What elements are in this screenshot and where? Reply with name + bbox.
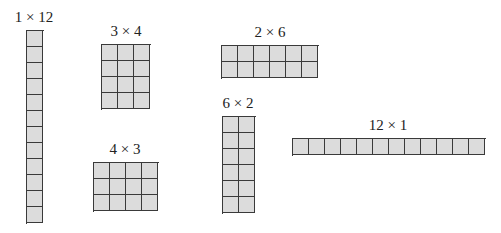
unit-square bbox=[302, 46, 318, 62]
unit-square bbox=[94, 195, 110, 211]
unit-square bbox=[27, 31, 43, 47]
unit-square bbox=[118, 61, 134, 77]
unit-square bbox=[27, 47, 43, 63]
unit-square bbox=[27, 191, 43, 207]
unit-square bbox=[286, 46, 302, 62]
unit-square bbox=[223, 117, 239, 133]
unit-square bbox=[405, 139, 421, 155]
unit-square bbox=[126, 163, 142, 179]
unit-square bbox=[94, 179, 110, 195]
unit-square bbox=[239, 181, 255, 197]
unit-square bbox=[341, 139, 357, 155]
unit-square bbox=[239, 149, 255, 165]
unit-square bbox=[469, 139, 485, 155]
unit-square bbox=[102, 77, 118, 93]
unit-square bbox=[118, 77, 134, 93]
unit-square bbox=[223, 181, 239, 197]
unit-square bbox=[373, 139, 389, 155]
unit-square bbox=[223, 149, 239, 165]
unit-square bbox=[94, 163, 110, 179]
grid-6x2 bbox=[222, 116, 256, 214]
unit-square bbox=[27, 207, 43, 223]
unit-square bbox=[325, 139, 341, 155]
unit-square bbox=[238, 62, 254, 78]
unit-square bbox=[223, 197, 239, 213]
unit-square bbox=[27, 79, 43, 95]
unit-square bbox=[270, 46, 286, 62]
unit-square bbox=[110, 179, 126, 195]
unit-square bbox=[102, 61, 118, 77]
unit-square bbox=[239, 117, 255, 133]
unit-square bbox=[302, 62, 318, 78]
unit-square bbox=[239, 197, 255, 213]
unit-square bbox=[309, 139, 325, 155]
unit-square bbox=[134, 45, 150, 61]
unit-square bbox=[27, 143, 43, 159]
grid-3x4 bbox=[101, 44, 151, 110]
unit-square bbox=[134, 93, 150, 109]
grid-12x1 bbox=[292, 138, 486, 156]
unit-square bbox=[27, 111, 43, 127]
array-label-6x2: 6 × 2 bbox=[223, 96, 254, 111]
unit-square bbox=[293, 139, 309, 155]
array-label-1x12: 1 × 12 bbox=[15, 10, 53, 25]
array-label-12x1: 12 × 1 bbox=[369, 118, 407, 133]
array-label-4x3: 4 × 3 bbox=[110, 142, 141, 157]
unit-square bbox=[222, 46, 238, 62]
grid-4x3 bbox=[93, 162, 159, 212]
unit-square bbox=[142, 179, 158, 195]
unit-square bbox=[110, 163, 126, 179]
unit-square bbox=[27, 175, 43, 191]
grid-1x12 bbox=[26, 30, 44, 224]
unit-square bbox=[223, 165, 239, 181]
unit-square bbox=[118, 45, 134, 61]
unit-square bbox=[27, 159, 43, 175]
unit-square bbox=[126, 195, 142, 211]
unit-square bbox=[238, 46, 254, 62]
unit-square bbox=[27, 63, 43, 79]
unit-square bbox=[27, 95, 43, 111]
unit-square bbox=[254, 62, 270, 78]
unit-square bbox=[118, 93, 134, 109]
unit-square bbox=[102, 93, 118, 109]
unit-square bbox=[389, 139, 405, 155]
unit-square bbox=[453, 139, 469, 155]
unit-square bbox=[437, 139, 453, 155]
unit-square bbox=[222, 62, 238, 78]
array-label-2x6: 2 × 6 bbox=[255, 25, 286, 40]
unit-square bbox=[421, 139, 437, 155]
unit-square bbox=[134, 61, 150, 77]
unit-square bbox=[142, 195, 158, 211]
unit-square bbox=[142, 163, 158, 179]
grid-2x6 bbox=[221, 45, 319, 79]
unit-square bbox=[254, 46, 270, 62]
unit-square bbox=[239, 133, 255, 149]
unit-square bbox=[27, 127, 43, 143]
array-label-3x4: 3 × 4 bbox=[111, 24, 142, 39]
unit-square bbox=[126, 179, 142, 195]
unit-square bbox=[102, 45, 118, 61]
unit-square bbox=[286, 62, 302, 78]
unit-square bbox=[223, 133, 239, 149]
unit-square bbox=[134, 77, 150, 93]
unit-square bbox=[239, 165, 255, 181]
unit-square bbox=[110, 195, 126, 211]
unit-square bbox=[357, 139, 373, 155]
unit-square bbox=[270, 62, 286, 78]
